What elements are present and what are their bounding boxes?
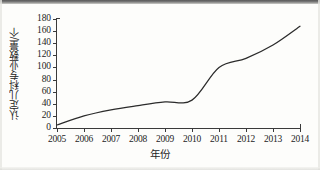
chart-figure: 020406080100120140160180 200520062007200… [0, 0, 320, 170]
x-axis-label: 年份 [0, 148, 320, 160]
series-plot [0, 0, 320, 170]
y-axis-label: 认定儿科专业数量/个 [9, 17, 23, 129]
series-line-path [57, 26, 300, 125]
